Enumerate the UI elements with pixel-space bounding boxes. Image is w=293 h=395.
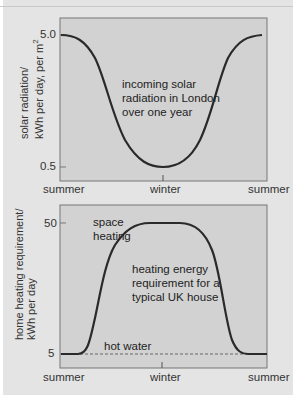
top-x-label-summer-start: summer	[43, 183, 85, 195]
bottom-x-label-summer-end: summer	[248, 371, 290, 383]
top-y-tick-label-min: 0.5	[40, 160, 56, 172]
space-heating-annotation: space heating	[93, 215, 131, 243]
top-x-label-summer-end: summer	[248, 183, 290, 195]
bottom-y-tick-label-max: 50	[44, 217, 57, 229]
solar-annotation: incoming solar radiation in London over …	[122, 77, 220, 119]
bottom-y-axis-label: home heating requirement/ kWh per day	[13, 209, 37, 340]
bottom-y-axis-label-line2: kWh per day	[25, 209, 37, 340]
bottom-y-axis-label-line1: home heating requirement/	[13, 209, 25, 340]
top-y-axis-label: solar radiation/ kWh per day, per m2	[18, 39, 45, 139]
hot-water-annotation: hot water	[104, 339, 151, 353]
bottom-x-label-summer-start: summer	[43, 371, 85, 383]
top-y-tick-label-max: 5.0	[40, 28, 56, 40]
top-x-label-winter: winter	[150, 183, 181, 195]
heating-requirement-annotation: heating energy requirement for a typical…	[132, 262, 220, 304]
top-y-axis-label-line2: kWh per day, per m2	[30, 39, 45, 139]
top-y-axis-label-line1: solar radiation/	[18, 39, 30, 139]
bottom-y-tick-label-min: 5	[48, 347, 54, 359]
bottom-x-label-winter: winter	[150, 371, 181, 383]
